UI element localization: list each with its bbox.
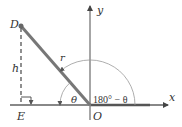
label-y-axis: y bbox=[96, 4, 104, 17]
label-theta: θ bbox=[71, 94, 77, 105]
label-point-e: E bbox=[16, 110, 25, 123]
label-supplement-angle: 180° − θ bbox=[93, 94, 128, 105]
diagram-canvas: D h E O y x r θ 180° − θ bbox=[0, 0, 182, 127]
point-d-dot bbox=[19, 24, 24, 29]
label-origin-o: O bbox=[93, 110, 102, 123]
label-height-h: h bbox=[12, 62, 19, 75]
right-angle-marker bbox=[21, 97, 31, 104]
label-radius-r: r bbox=[60, 52, 66, 63]
label-x-axis: x bbox=[169, 91, 176, 104]
theta-arc bbox=[60, 82, 70, 105]
label-point-d: D bbox=[9, 18, 19, 31]
rod-r bbox=[21, 26, 90, 105]
